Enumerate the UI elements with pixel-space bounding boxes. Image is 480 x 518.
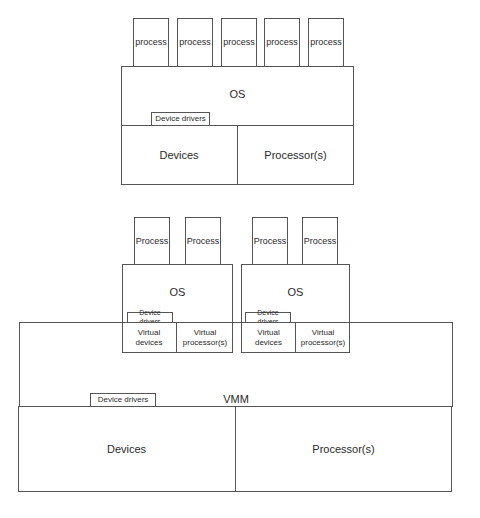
vm2-os-label: OS [241, 285, 350, 299]
top-process-box-5: process [308, 18, 344, 67]
vmm-device-drivers-box: Device drivers [90, 393, 156, 407]
vmm-label: VMM [196, 392, 276, 406]
top-processors-label: Processor(s) [237, 125, 354, 185]
bottom-devices-label: Devices [18, 406, 235, 492]
top-device-drivers-box: Device drivers [151, 112, 210, 126]
process-label: process [266, 37, 298, 47]
process-label: Process [136, 236, 169, 246]
top-process-box-4: process [264, 18, 300, 67]
process-label: Process [254, 236, 287, 246]
vm1-virtual-devices-label: Virtual devices [125, 322, 173, 353]
process-label: process [135, 37, 167, 47]
top-os-label: OS [121, 86, 354, 102]
vm1-process-box-2: Process [185, 217, 221, 265]
process-label: process [223, 37, 255, 47]
process-label: process [179, 37, 211, 47]
process-label: Process [304, 236, 337, 246]
top-process-box-3: process [221, 18, 257, 67]
vm2-virtual-devices-label: Virtual devices [243, 322, 294, 353]
top-process-box-2: process [177, 18, 213, 67]
process-label: Process [187, 236, 220, 246]
vm2-process-box-2: Process [302, 217, 338, 265]
top-devices-label: Devices [121, 125, 237, 185]
vm1-process-box-1: Process [134, 217, 170, 265]
process-label: process [310, 37, 342, 47]
top-process-box-1: process [133, 18, 169, 67]
vm1-virtual-processors-label: Virtual processor(s) [177, 322, 233, 353]
vm2-process-box-1: Process [252, 217, 288, 265]
vm1-os-label: OS [122, 285, 233, 299]
vm2-virtual-processors-label: Virtual processor(s) [296, 322, 350, 353]
bottom-processors-label: Processor(s) [235, 406, 452, 492]
